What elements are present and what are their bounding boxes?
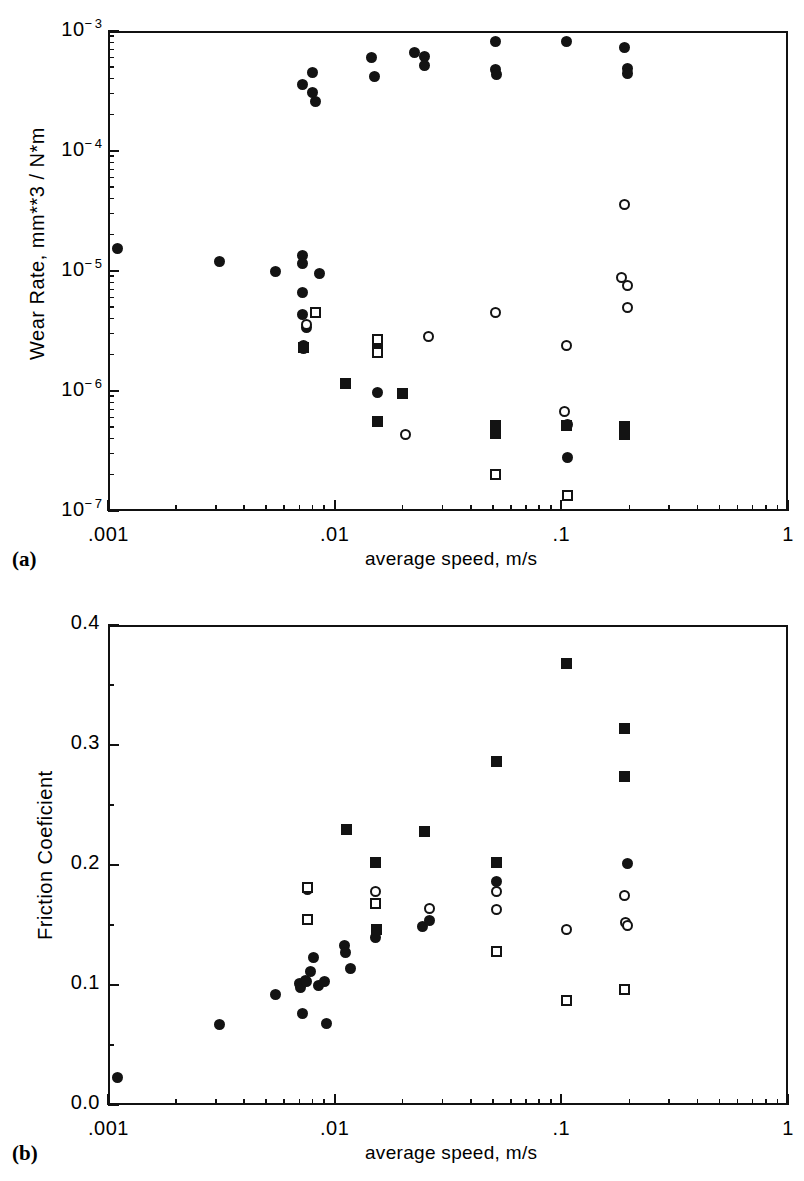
x-axis-label-b: average speed, m/s bbox=[365, 1142, 537, 1164]
y-minor-tick bbox=[108, 213, 114, 215]
y-major-tick bbox=[108, 150, 119, 152]
x-minor-tick bbox=[299, 1099, 301, 1105]
data-point-open-square bbox=[302, 882, 313, 893]
data-point-open-square bbox=[490, 469, 501, 480]
x-minor-tick bbox=[243, 1099, 245, 1105]
data-point-filled-circle bbox=[301, 976, 312, 987]
data-point-filled-square bbox=[397, 388, 408, 399]
y-minor-tick bbox=[108, 42, 114, 44]
data-point-open-circle bbox=[424, 903, 435, 914]
x-minor-tick bbox=[402, 505, 404, 511]
y-minor-tick bbox=[108, 35, 114, 37]
data-point-open-circle bbox=[490, 307, 501, 318]
data-point-filled-circle bbox=[112, 1072, 123, 1083]
data-point-filled-circle bbox=[321, 1018, 332, 1029]
data-point-filled-circle bbox=[366, 52, 377, 63]
y-tick-label: 0.4 bbox=[46, 611, 100, 634]
panel-label-a: (a) bbox=[12, 547, 37, 572]
data-point-filled-circle bbox=[424, 915, 435, 926]
data-point-filled-circle bbox=[490, 36, 501, 47]
data-point-open-circle bbox=[619, 199, 630, 210]
x-minor-tick bbox=[442, 1099, 444, 1105]
y-tick-label: 0.0 bbox=[46, 1091, 100, 1114]
data-point-open-square bbox=[562, 490, 573, 501]
data-point-filled-circle bbox=[622, 68, 633, 79]
data-point-filled-square bbox=[619, 771, 630, 782]
data-point-filled-square bbox=[371, 924, 382, 935]
x-minor-tick bbox=[765, 505, 767, 511]
data-point-open-circle bbox=[619, 890, 630, 901]
x-minor-tick bbox=[719, 1099, 721, 1105]
data-point-filled-circle bbox=[297, 258, 308, 269]
x-minor-tick bbox=[312, 505, 314, 511]
y-minor-tick bbox=[108, 186, 114, 188]
x-minor-tick bbox=[550, 1099, 552, 1105]
data-point-open-circle bbox=[622, 302, 633, 313]
y-minor-tick bbox=[108, 162, 114, 164]
data-point-filled-circle bbox=[214, 256, 225, 267]
x-minor-tick bbox=[629, 1099, 631, 1105]
data-point-filled-circle bbox=[270, 266, 281, 277]
x-minor-tick bbox=[265, 1099, 267, 1105]
x-minor-tick bbox=[283, 505, 285, 511]
y-minor-tick bbox=[108, 169, 114, 171]
x-minor-tick bbox=[215, 1099, 217, 1105]
x-minor-tick bbox=[243, 505, 245, 511]
y-minor-tick bbox=[108, 177, 114, 179]
y-tick-label: 0.2 bbox=[46, 851, 100, 874]
data-point-open-square bbox=[619, 984, 630, 995]
y-minor-tick bbox=[108, 395, 114, 397]
y-tick-label: 10− 7 bbox=[36, 496, 102, 521]
x-major-tick bbox=[334, 500, 336, 511]
y-minor-tick bbox=[108, 333, 114, 335]
y-minor-tick bbox=[108, 354, 114, 356]
data-point-open-square bbox=[561, 995, 572, 1006]
x-minor-tick bbox=[697, 505, 699, 511]
x-minor-tick bbox=[668, 1099, 670, 1105]
data-point-filled-circle bbox=[310, 96, 321, 107]
x-axis-label-a: average speed, m/s bbox=[365, 548, 537, 570]
y-minor-tick bbox=[108, 318, 114, 320]
x-minor-tick bbox=[299, 505, 301, 511]
x-major-tick bbox=[560, 500, 562, 511]
y-minor-tick bbox=[108, 804, 114, 806]
y-minor-tick bbox=[108, 282, 114, 284]
x-minor-tick bbox=[777, 1099, 779, 1105]
x-minor-tick bbox=[323, 505, 325, 511]
x-minor-tick bbox=[470, 505, 472, 511]
x-minor-tick bbox=[538, 1099, 540, 1105]
data-point-open-circle bbox=[561, 924, 572, 935]
y-minor-tick bbox=[108, 66, 114, 68]
y-minor-tick bbox=[108, 275, 114, 277]
data-point-filled-circle bbox=[314, 268, 325, 279]
y-major-tick bbox=[108, 390, 119, 392]
plot-area-b bbox=[108, 625, 788, 1105]
y-tick-label: 10− 3 bbox=[36, 16, 102, 41]
data-point-open-square bbox=[372, 347, 383, 358]
y-minor-tick bbox=[108, 93, 114, 95]
x-minor-tick bbox=[752, 1099, 754, 1105]
x-minor-tick bbox=[668, 505, 670, 511]
x-minor-tick bbox=[538, 505, 540, 511]
y-minor-tick bbox=[108, 474, 114, 476]
y-major-tick bbox=[108, 864, 119, 866]
data-point-open-circle bbox=[301, 319, 312, 330]
x-minor-tick bbox=[175, 505, 177, 511]
x-minor-tick bbox=[175, 1099, 177, 1105]
x-major-tick bbox=[560, 1094, 562, 1105]
data-point-filled-square bbox=[561, 658, 572, 669]
y-tick-label: 10− 4 bbox=[36, 136, 102, 161]
y-major-tick bbox=[108, 270, 119, 272]
data-point-filled-square bbox=[491, 857, 502, 868]
x-minor-tick bbox=[737, 505, 739, 511]
x-minor-tick bbox=[629, 505, 631, 511]
y-tick-label: 0.1 bbox=[46, 971, 100, 994]
data-point-open-circle bbox=[559, 406, 570, 417]
x-tick-label: .1 bbox=[541, 1117, 581, 1140]
data-point-filled-square bbox=[490, 428, 501, 439]
y-minor-tick bbox=[108, 924, 114, 926]
x-minor-tick bbox=[402, 1099, 404, 1105]
y-minor-tick bbox=[108, 684, 114, 686]
y-minor-tick bbox=[108, 453, 114, 455]
y-minor-tick bbox=[108, 155, 114, 157]
